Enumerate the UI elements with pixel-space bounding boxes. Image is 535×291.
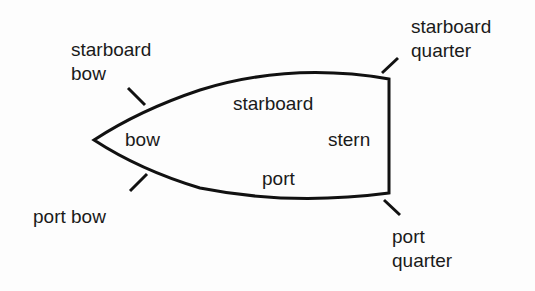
label-starboard: starboard: [233, 92, 313, 116]
label-starboard-quarter: starboard quarter: [411, 15, 491, 63]
label-stern: stern: [328, 128, 370, 152]
port-quarter-pointer: [384, 200, 400, 215]
starboard-quarter-pointer: [382, 58, 398, 73]
label-bow: bow: [125, 128, 160, 152]
label-port: port: [262, 167, 295, 191]
port-bow-pointer: [130, 174, 147, 191]
label-port-bow: port bow: [33, 205, 106, 229]
label-port-quarter: port quarter: [392, 225, 452, 273]
starboard-bow-pointer: [128, 88, 145, 105]
label-starboard-bow: starboard bow: [71, 38, 151, 86]
